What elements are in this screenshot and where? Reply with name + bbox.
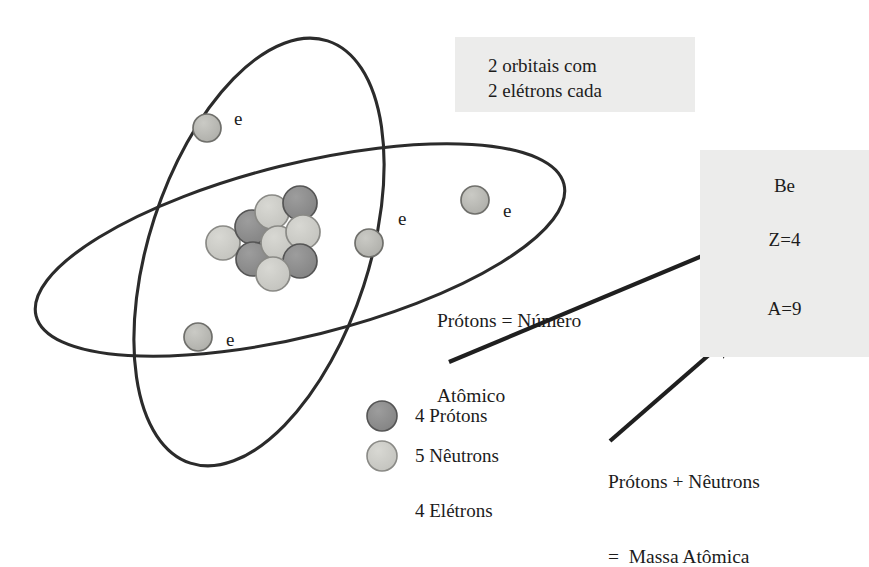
legend-swatch-neutron [367, 441, 397, 471]
electron-right-label: e [503, 200, 511, 222]
legend-label-protons: 4 Prótons [415, 405, 487, 427]
nucleon-neutron [256, 257, 290, 291]
legend-swatch-proton [367, 401, 397, 431]
orbitals-note-box: 2 orbitais com 2 elétrons cada [455, 37, 695, 112]
electron-lower-left-label: e [226, 329, 234, 351]
electron-center-label: e [398, 208, 406, 230]
element-mass-number: A=9 [700, 298, 869, 320]
orbitals-note-line2: 2 elétrons cada [488, 78, 695, 103]
mass-equals-line1: Prótons + Nêutrons [608, 469, 760, 494]
electron-upper-left-label: e [234, 108, 242, 130]
mass-equals-line2: = Massa Atômica [608, 544, 760, 567]
protons-equals-line1: Prótons = Número [437, 308, 581, 333]
legend-label-neutrons: 5 Nêutrons [415, 445, 499, 467]
electron-upper-left [193, 114, 221, 142]
legend-label-electrons: 4 Elétrons [415, 500, 493, 522]
electron-center [355, 229, 383, 257]
element-symbol: Be [700, 175, 869, 197]
mass-equals-annotation: Prótons + Nêutrons = Massa Atômica [608, 419, 760, 567]
element-info-box: Be Z=4 A=9 [700, 150, 869, 357]
nucleus [206, 186, 320, 291]
legend-swatches [367, 401, 397, 471]
electron-right [461, 186, 489, 214]
orbitals-note-line1: 2 orbitais com [488, 53, 695, 78]
element-atomic-number: Z=4 [700, 229, 869, 251]
protons-equals-annotation: Prótons = Número Atômico [437, 258, 581, 458]
electron-lower-left [184, 323, 212, 351]
